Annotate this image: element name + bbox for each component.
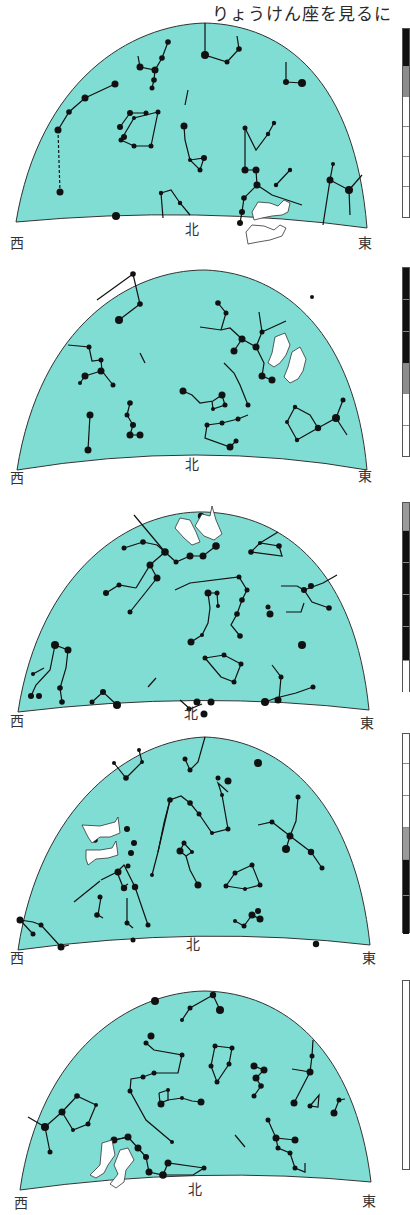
north-label: 北 bbox=[186, 933, 200, 953]
time-bar-segment bbox=[403, 268, 409, 300]
time-bar-segment bbox=[403, 97, 409, 127]
time-bar-segment bbox=[403, 157, 409, 187]
north-label: 北 bbox=[188, 1178, 202, 1198]
time-bar-segment bbox=[403, 67, 409, 97]
east-label: 東 bbox=[362, 1190, 376, 1210]
time-bar-segment bbox=[403, 860, 409, 896]
west-label: 西 bbox=[10, 232, 24, 252]
sky-dome bbox=[0, 960, 408, 1215]
sky-panel-5: 西 北 東 bbox=[0, 960, 408, 1215]
time-bar-segment bbox=[403, 29, 409, 67]
time-bar bbox=[402, 733, 410, 933]
time-bar-segment bbox=[403, 734, 409, 764]
time-bar-segment bbox=[403, 764, 409, 796]
east-label: 東 bbox=[358, 465, 372, 485]
time-bar-segment bbox=[403, 1013, 409, 1045]
north-label: 北 bbox=[184, 702, 198, 722]
sky-dome bbox=[0, 20, 408, 255]
west-label: 西 bbox=[14, 1192, 28, 1212]
time-bar-segment bbox=[403, 127, 409, 157]
time-bar-segment bbox=[403, 332, 409, 364]
time-bar-segment bbox=[403, 300, 409, 332]
time-bar-segment bbox=[403, 627, 409, 661]
time-bar bbox=[402, 502, 410, 692]
time-bar bbox=[402, 28, 410, 218]
sky-dome bbox=[0, 255, 408, 485]
west-label: 西 bbox=[10, 467, 24, 487]
time-bar-segment bbox=[403, 661, 409, 693]
sky-dome bbox=[0, 490, 408, 725]
north-label: 北 bbox=[185, 453, 199, 473]
time-bar-segment bbox=[403, 1109, 409, 1139]
east-label: 東 bbox=[358, 232, 372, 252]
sky-panel-4: 西 北 東 bbox=[0, 725, 408, 960]
time-bar-segment bbox=[403, 796, 409, 828]
time-bar-segment bbox=[403, 1045, 409, 1077]
time-bar-segment bbox=[403, 394, 409, 426]
north-label: 北 bbox=[185, 218, 199, 238]
sky-dome bbox=[0, 725, 408, 960]
time-bar-segment bbox=[403, 595, 409, 627]
time-bar-segment bbox=[403, 1139, 409, 1169]
sky-panel-1: 西 北 東 bbox=[0, 20, 408, 255]
time-bar-segment bbox=[403, 1077, 409, 1109]
time-bar-segment bbox=[403, 187, 409, 217]
time-bar-segment bbox=[403, 896, 409, 934]
time-bar-segment bbox=[403, 364, 409, 394]
time-bar bbox=[402, 267, 410, 457]
time-bar-segment bbox=[403, 503, 409, 531]
time-bar-segment bbox=[403, 828, 409, 860]
time-bar-segment bbox=[403, 981, 409, 1013]
time-bar-segment bbox=[403, 426, 409, 456]
sky-panel-2: 西 北 東 bbox=[0, 255, 408, 485]
time-bar-segment bbox=[403, 563, 409, 595]
time-bar bbox=[402, 980, 410, 1170]
time-bar-segment bbox=[403, 531, 409, 563]
sky-panel-3: 西 北 東 bbox=[0, 490, 408, 725]
